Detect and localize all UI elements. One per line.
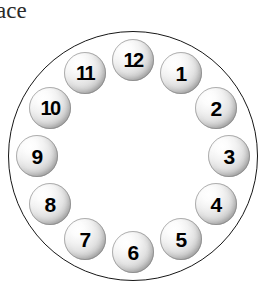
number-ball-label: 8 — [44, 194, 55, 215]
number-ball-label: 11 — [76, 63, 94, 84]
number-ball-11[interactable]: 11 — [64, 52, 106, 94]
number-ball-label: 9 — [31, 146, 42, 167]
number-ball-2[interactable]: 2 — [195, 87, 237, 129]
number-ball-label: 3 — [223, 146, 234, 167]
number-ball-12[interactable]: 12 — [112, 39, 154, 81]
number-ball-6[interactable]: 6 — [112, 231, 154, 273]
number-ball-label: 2 — [210, 98, 221, 119]
number-ball-4[interactable]: 4 — [195, 183, 237, 225]
number-ball-10[interactable]: 10 — [29, 87, 71, 129]
number-ball-label: 4 — [210, 194, 221, 215]
number-ball-7[interactable]: 7 — [64, 218, 106, 260]
clock-face-figure: ace 121234567891011 — [0, 0, 263, 289]
number-ball-label: 7 — [79, 229, 90, 250]
number-ball-1[interactable]: 1 — [160, 52, 202, 94]
number-ball-label: 12 — [123, 50, 142, 71]
number-ball-3[interactable]: 3 — [208, 135, 250, 177]
number-ball-label: 1 — [175, 63, 186, 84]
caption-text-fragment: ace — [0, 0, 27, 25]
number-ball-label: 5 — [175, 229, 186, 250]
number-ball-8[interactable]: 8 — [29, 183, 71, 225]
number-ball-9[interactable]: 9 — [16, 135, 58, 177]
number-ball-label: 6 — [127, 242, 138, 263]
number-ball-label: 10 — [40, 98, 59, 119]
number-ball-5[interactable]: 5 — [160, 218, 202, 260]
